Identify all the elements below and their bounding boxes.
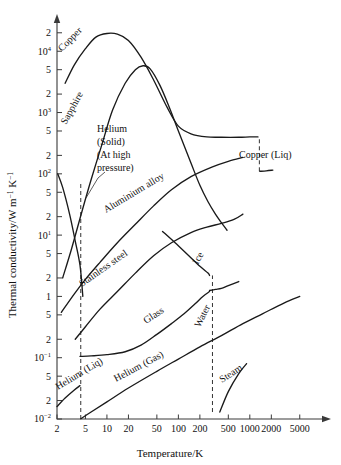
- chart-canvas: 25102050100200500100020005000 10−22510−1…: [0, 0, 341, 465]
- x-tick-label: 10: [102, 423, 112, 434]
- y-tick-label: 2: [46, 272, 51, 283]
- x-tick-label: 5: [83, 423, 88, 434]
- x-tick-label: 200: [192, 423, 207, 434]
- y-tick-label: 2: [46, 211, 51, 222]
- y-axis-title-main: Thermal conductivity/W m: [6, 198, 18, 318]
- y-axis-title-sup-1: −1: [6, 190, 15, 198]
- x-tick-label: 50: [152, 423, 162, 434]
- x-tick-label: 2: [55, 423, 60, 434]
- chart-background: [0, 0, 341, 465]
- y-tick-label: 5: [46, 64, 51, 75]
- annotation-helium-solid-line1: Helium: [97, 123, 127, 134]
- y-tick-label: 2: [46, 395, 51, 406]
- curve-label-copper-liq: Copper (Liq): [239, 149, 292, 161]
- y-tick-label: 5: [46, 248, 51, 259]
- x-tick-label: 100: [171, 423, 186, 434]
- y-tick-label: 5: [46, 371, 51, 382]
- y-tick-label: 2: [46, 88, 51, 99]
- y-tick-label: 5: [46, 309, 51, 320]
- x-tick-label: 500: [221, 423, 236, 434]
- y-tick-label: 5: [46, 187, 51, 198]
- x-tick-label: 5000: [290, 423, 310, 434]
- y-axis-title-sup-2: −1: [6, 172, 15, 180]
- y-tick-label: 1: [46, 291, 51, 302]
- y-tick-label: 5: [46, 125, 51, 136]
- annotation-helium-solid-line4: pressure): [97, 162, 134, 174]
- annotation-helium-solid-line2: (Solid): [97, 136, 125, 148]
- y-axis-title-mid: K: [6, 180, 18, 191]
- x-axis-title: Temperature/K: [137, 447, 203, 459]
- y-tick-label: 2: [46, 334, 51, 345]
- y-tick-label: 2: [46, 150, 51, 161]
- x-tick-label: 20: [123, 423, 133, 434]
- x-tick-label: 1000: [240, 423, 260, 434]
- x-tick-label: 2000: [261, 423, 281, 434]
- annotation-helium-solid-line3: (At high: [97, 149, 131, 161]
- thermal-conductivity-chart: 25102050100200500100020005000 10−22510−1…: [0, 0, 341, 465]
- y-tick-label: 2: [46, 27, 51, 38]
